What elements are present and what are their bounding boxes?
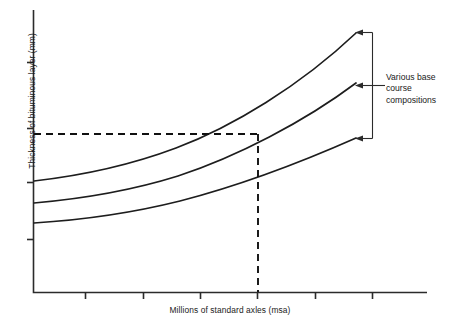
annotation-line-1: Various base <box>386 72 459 83</box>
base-course-bracket <box>355 30 385 142</box>
arrowhead-bottom <box>355 136 363 142</box>
base-course-annotation-text: Various base course compositions <box>386 72 459 106</box>
chart-canvas <box>0 0 459 325</box>
curve-lower <box>34 138 356 223</box>
arrowhead-top <box>355 30 363 36</box>
annotation-line-2: course <box>386 83 459 94</box>
chart-figure: Thickness of bituminous layer (mm) Milli… <box>0 0 459 325</box>
x-axis-ticks <box>86 293 373 300</box>
y-axis-label: Thickness of bituminous layer (mm) <box>27 0 37 211</box>
axis-lines <box>34 10 428 293</box>
annotation-line-3: compositions <box>386 95 459 106</box>
x-axis-label: Millions of standard axles (msa) <box>33 305 427 315</box>
curve-middle <box>34 83 356 203</box>
